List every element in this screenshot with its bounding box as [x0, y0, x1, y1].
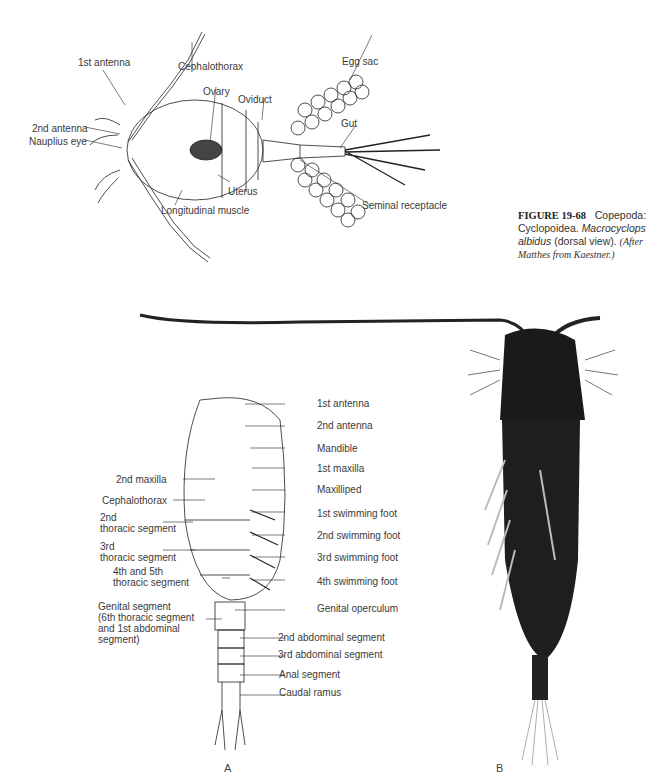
label-a-2nd-swimming-foot: 2nd swimming foot	[317, 530, 400, 542]
label-a-2nd-maxilla: 2nd maxilla	[116, 474, 167, 486]
panel-label-b: B	[496, 762, 503, 774]
label-uterus: Uterus	[228, 186, 257, 198]
figure-number: FIGURE 19-68	[518, 210, 586, 221]
label-gut: Gut	[341, 118, 357, 130]
panel-label-a: A	[224, 762, 231, 774]
label-longitudinal-muscle: Longitudinal muscle	[161, 205, 249, 217]
top-copepod-diagram	[85, 32, 440, 262]
panel-b-head	[500, 329, 585, 420]
label-oviduct: Oviduct	[238, 94, 272, 106]
label-a-2nd-antenna: 2nd antenna	[317, 420, 373, 432]
label-ovary: Ovary	[203, 86, 230, 98]
label-nauplius-eye: Nauplius eye	[29, 136, 87, 148]
label-a-maxilliped: Maxilliped	[317, 484, 361, 496]
label-2nd-antenna: 2nd antenna	[32, 123, 88, 135]
label-a-1st-antenna: 1st antenna	[317, 398, 369, 410]
egg-sac-upper	[291, 75, 369, 135]
label-a-2nd-thoracic-2: thoracic segment	[100, 523, 176, 535]
label-egg-sac: Egg sac	[342, 56, 378, 68]
upper-antenna	[128, 32, 202, 142]
label-cephalothorax: Cephalothorax	[178, 61, 243, 73]
label-a-3rd-swimming-foot: 3rd swimming foot	[317, 552, 398, 564]
panel-b-caudal-setae	[522, 700, 558, 765]
label-a-1st-swimming-foot: 1st swimming foot	[317, 508, 397, 520]
figure-view: (dorsal view).	[554, 235, 616, 247]
label-a-4th-5th-thoracic-2: thoracic segment	[113, 577, 189, 589]
label-a-cephalothorax: Cephalothorax	[102, 495, 167, 507]
label-a-3rd-abdominal-segment: 3rd abdominal segment	[278, 649, 383, 661]
label-1st-antenna: 1st antenna	[78, 57, 130, 69]
label-a-genital-segment-4: segment)	[98, 634, 140, 646]
panel-a-copepod-diagram	[163, 398, 285, 750]
panel-b-tail	[532, 655, 548, 700]
panel-b-setae-right	[585, 350, 618, 395]
label-a-4th-swimming-foot: 4th swimming foot	[317, 576, 398, 588]
figure-caption: FIGURE 19-68 Copepoda: Cyclopoidea. Macr…	[518, 209, 665, 261]
egg-sac-lower	[291, 158, 365, 227]
panel-b-setae-left	[468, 350, 500, 395]
panel-b-long-antenna	[140, 315, 530, 340]
label-a-caudal-ramus: Caudal ramus	[279, 687, 341, 699]
label-a-mandible: Mandible	[317, 443, 358, 455]
label-a-1st-maxilla: 1st maxilla	[317, 463, 364, 475]
illustration-layer	[0, 0, 665, 783]
label-a-genital-operculum: Genital operculum	[317, 603, 398, 615]
label-a-2nd-abdominal-segment: 2nd abdominal segment	[278, 632, 385, 644]
panel-b-body	[502, 420, 580, 660]
ovary-shape	[190, 140, 222, 160]
label-a-anal-segment: Anal segment	[279, 669, 340, 681]
label-a-3rd-thoracic-2: thoracic segment	[100, 552, 176, 564]
label-seminal-receptacle: Seminal receptacle	[362, 200, 447, 212]
